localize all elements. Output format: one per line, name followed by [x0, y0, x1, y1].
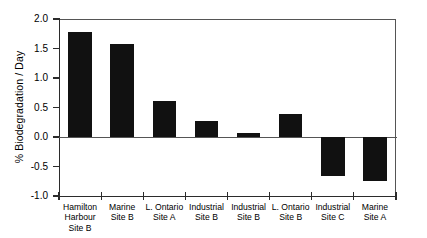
category-label-line: Industrial	[309, 202, 357, 212]
x-axis-category-label: IndustrialSite B	[182, 202, 230, 223]
x-axis-tick	[185, 192, 186, 200]
x-axis-category-label: HamiltonHarbourSite B	[56, 202, 104, 233]
bar	[68, 32, 92, 137]
x-axis-tick	[143, 192, 144, 200]
x-axis-category-label: L. OntarioSite A	[140, 202, 188, 223]
x-axis-tick	[353, 192, 354, 200]
category-label-line: Hamilton	[56, 202, 104, 212]
category-label-line: Site B	[267, 212, 315, 222]
y-axis-line	[59, 19, 60, 196]
bar	[279, 114, 303, 137]
zero-baseline	[59, 137, 397, 138]
bar	[237, 133, 261, 137]
x-axis-category-label: MarineSite A	[351, 202, 399, 223]
y-axis-tick-label: 1.5	[8, 44, 48, 54]
x-axis-tick	[311, 192, 312, 200]
bar	[153, 101, 177, 137]
x-axis-category-label: MarineSite B	[98, 202, 146, 223]
category-label-line: Site B	[225, 212, 273, 222]
category-label-line: Site C	[309, 212, 357, 222]
category-label-line: Marine	[98, 202, 146, 212]
bar	[110, 44, 134, 137]
category-label-line: Site B	[182, 212, 230, 222]
category-label-line: Marine	[351, 202, 399, 212]
x-axis-tick	[58, 192, 59, 200]
bar	[195, 121, 219, 137]
x-axis-category-label: IndustrialSite B	[225, 202, 273, 223]
category-label-line: Site A	[351, 212, 399, 222]
x-axis-tick	[227, 192, 228, 200]
x-axis-tick	[395, 192, 396, 200]
category-label-line: Site B	[56, 223, 104, 233]
bar-chart-figure: % Biodegradation / Day 2.01.51.00.50.0-0…	[0, 0, 427, 238]
x-axis-category-label: L. OntarioSite B	[267, 202, 315, 223]
category-label-line: Site A	[140, 212, 188, 222]
y-axis-tick-label: -1.0	[8, 191, 48, 201]
y-axis-tick-label: 0.0	[8, 132, 48, 142]
category-label-line: Industrial	[225, 202, 273, 212]
x-axis-category-label: IndustrialSite C	[309, 202, 357, 223]
x-axis-tick	[101, 192, 102, 200]
y-axis-tick-label: 0.5	[8, 103, 48, 113]
category-label-line: Harbour	[56, 212, 104, 222]
bar	[363, 137, 387, 181]
category-label-line: L. Ontario	[140, 202, 188, 212]
bar	[321, 137, 345, 176]
category-label-line: Industrial	[182, 202, 230, 212]
y-axis-tick-label: 1.0	[8, 73, 48, 83]
y-axis-tick-label: 2.0	[8, 14, 48, 24]
category-label-line: Site B	[98, 212, 146, 222]
y-axis-tick-label: -0.5	[8, 162, 48, 172]
x-axis-tick	[269, 192, 270, 200]
category-label-line: L. Ontario	[267, 202, 315, 212]
